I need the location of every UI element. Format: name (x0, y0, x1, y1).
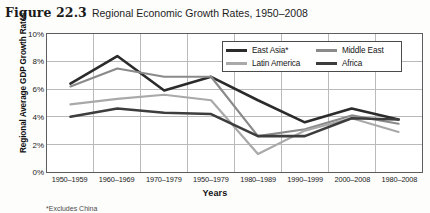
legend-item-middle-east[interactable]: Middle East (316, 46, 398, 55)
legend-item-latin-america[interactable]: Latin America (226, 59, 316, 68)
y-tick-label: 8% (4, 57, 44, 66)
x-tick-label: 2000–2008 (329, 175, 376, 187)
y-tick-label: 4% (4, 113, 44, 122)
legend-swatch-icon (316, 62, 337, 65)
legend-label: Middle East (342, 46, 384, 55)
figure-caption: Figure 22.3Regional Economic Growth Rate… (5, 3, 426, 19)
legend-label: Latin America (252, 59, 300, 68)
y-tick-label: 10% (4, 30, 44, 39)
y-tick-label: 0% (4, 168, 44, 177)
legend-item-africa[interactable]: Africa (316, 59, 398, 68)
legend-row: Latin America Africa (226, 57, 398, 70)
y-tick-label: 6% (4, 85, 44, 94)
x-tick-label: 1970–1979 (140, 175, 187, 187)
x-tick-label: 1960–1969 (93, 175, 140, 187)
legend-label: Africa (342, 59, 362, 68)
x-tick-label: 1950–1959 (46, 175, 93, 187)
figure-title: Regional Economic Growth Rates, 1950–200… (92, 7, 308, 19)
x-axis-title: Years (0, 188, 430, 198)
legend-swatch-icon (226, 49, 247, 52)
figure-container: Figure 22.3Regional Economic Growth Rate… (0, 0, 430, 213)
legend-swatch-icon (226, 62, 247, 65)
figure-footnote: *Excludes China (46, 205, 97, 212)
x-tick-label: 1990–1999 (282, 175, 329, 187)
legend-swatch-icon (316, 49, 337, 52)
x-tick-label: 1980–2008 (376, 175, 423, 187)
x-tick-label: 1980–1989 (235, 175, 282, 187)
x-tick-label: 1950–1979 (187, 175, 234, 187)
y-axis-ticks: 10% 8% 6% 4% 2% 0% (0, 0, 44, 213)
y-tick-label: 2% (4, 141, 44, 150)
chart-legend: East Asia* Middle East Latin America Afr… (222, 41, 402, 72)
legend-row: East Asia* Middle East (226, 44, 398, 57)
legend-item-east-asia[interactable]: East Asia* (226, 46, 316, 55)
legend-label: East Asia* (252, 46, 288, 55)
x-axis-ticks: 1950–1959 1960–1969 1970–1979 1950–1979 … (46, 175, 423, 187)
